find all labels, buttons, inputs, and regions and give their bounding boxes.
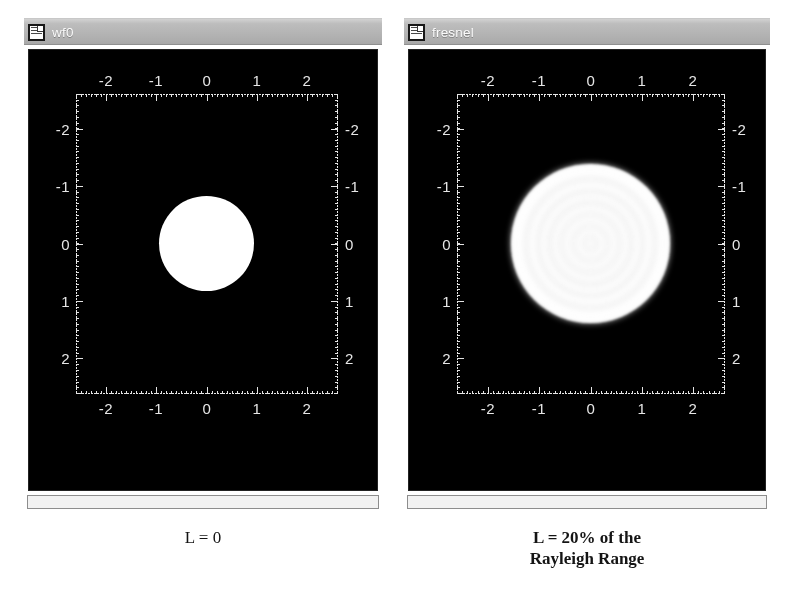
- statusbar-fresnel: [407, 495, 767, 509]
- caption-fresnel-line2: Rayleigh Range: [404, 548, 770, 569]
- aperture-disc: [159, 196, 254, 291]
- ytick-label-left: 2: [46, 351, 70, 366]
- major-tick-y: [331, 186, 338, 187]
- major-tick-y: [331, 301, 338, 302]
- ytick-label-right: 0: [345, 237, 354, 252]
- major-tick-y: [76, 186, 83, 187]
- major-tick-x: [106, 94, 107, 101]
- ytick-label-right: 1: [732, 294, 741, 309]
- caption-fresnel: L = 20% of the Rayleigh Range: [404, 527, 770, 569]
- window-body-wf0: -2-2-1-1001122221100-1-1-2-2: [24, 45, 382, 491]
- xtick-label-bottom: 1: [253, 401, 262, 416]
- major-tick-x: [539, 387, 540, 394]
- major-tick-x: [207, 387, 208, 394]
- ytick-label-right: -2: [732, 122, 746, 137]
- xtick-label-top: 1: [253, 73, 262, 88]
- major-tick-y: [457, 244, 464, 245]
- major-tick-x: [642, 94, 643, 101]
- major-tick-x: [207, 94, 208, 101]
- ytick-label-right: 0: [732, 237, 741, 252]
- major-tick-y: [457, 358, 464, 359]
- titlebar-fresnel[interactable]: fresnel: [404, 18, 770, 45]
- major-tick-y: [457, 186, 464, 187]
- major-tick-y: [718, 186, 725, 187]
- major-tick-x: [591, 387, 592, 394]
- ytick-label-left: 1: [46, 294, 70, 309]
- caption-wf0: L = 0: [24, 527, 382, 548]
- major-tick-x: [693, 94, 694, 101]
- major-tick-x: [642, 387, 643, 394]
- window-body-fresnel: -2-2-1-1001122221100-1-1-2-2: [404, 45, 770, 491]
- titlebar-wf0[interactable]: wf0: [24, 18, 382, 45]
- ytick-label-left: 0: [46, 237, 70, 252]
- xtick-label-top: 2: [689, 73, 698, 88]
- xtick-label-bottom: 0: [203, 401, 212, 416]
- ytick-label-left: 0: [427, 237, 451, 252]
- major-tick-x: [257, 94, 258, 101]
- ytick-label-right: -2: [345, 122, 359, 137]
- xtick-label-bottom: 1: [638, 401, 647, 416]
- major-tick-y: [331, 244, 338, 245]
- window-title-wf0: wf0: [52, 25, 74, 40]
- window-fresnel[interactable]: fresnel -2-2-1-1001122221100-1-1-2-2: [404, 18, 770, 518]
- major-tick-x: [156, 94, 157, 101]
- major-tick-x: [307, 387, 308, 394]
- xtick-label-bottom: -1: [532, 401, 546, 416]
- major-tick-y: [76, 358, 83, 359]
- major-tick-y: [76, 244, 83, 245]
- major-tick-x: [156, 387, 157, 394]
- ytick-label-left: 1: [427, 294, 451, 309]
- xtick-label-bottom: -2: [481, 401, 495, 416]
- caption-wf0-line1: L = 0: [185, 528, 221, 547]
- xtick-label-top: -1: [149, 73, 163, 88]
- ytick-label-left: -1: [46, 179, 70, 194]
- ytick-label-right: -1: [732, 179, 746, 194]
- major-tick-x: [488, 387, 489, 394]
- major-tick-x: [693, 387, 694, 394]
- document-window-icon: [408, 24, 425, 41]
- caption-fresnel-line1: L = 20% of the: [533, 528, 641, 547]
- xtick-label-bottom: -1: [149, 401, 163, 416]
- major-tick-x: [488, 94, 489, 101]
- ytick-label-right: 2: [732, 351, 741, 366]
- ytick-label-left: -1: [427, 179, 451, 194]
- xtick-label-top: 1: [638, 73, 647, 88]
- xtick-label-bottom: -2: [99, 401, 113, 416]
- plot-canvas-fresnel[interactable]: -2-2-1-1001122221100-1-1-2-2: [408, 49, 766, 491]
- major-tick-x: [591, 94, 592, 101]
- major-tick-y: [457, 301, 464, 302]
- xtick-label-top: 0: [203, 73, 212, 88]
- window-wf0[interactable]: wf0 -2-2-1-1001122221100-1-1-2-2: [24, 18, 382, 518]
- major-tick-y: [76, 301, 83, 302]
- major-tick-x: [307, 94, 308, 101]
- xtick-label-top: 0: [587, 73, 596, 88]
- xtick-label-bottom: 2: [303, 401, 312, 416]
- ytick-label-right: -1: [345, 179, 359, 194]
- ytick-label-left: -2: [46, 122, 70, 137]
- xtick-label-bottom: 2: [689, 401, 698, 416]
- xtick-label-top: 2: [303, 73, 312, 88]
- xtick-label-bottom: 0: [587, 401, 596, 416]
- major-tick-y: [718, 301, 725, 302]
- major-tick-y: [331, 358, 338, 359]
- major-tick-y: [457, 129, 464, 130]
- major-tick-y: [718, 129, 725, 130]
- plot-canvas-wf0[interactable]: -2-2-1-1001122221100-1-1-2-2: [28, 49, 378, 491]
- ytick-label-left: -2: [427, 122, 451, 137]
- major-tick-y: [331, 129, 338, 130]
- major-tick-y: [718, 244, 725, 245]
- window-title-fresnel: fresnel: [432, 25, 474, 40]
- ytick-label-right: 2: [345, 351, 354, 366]
- major-tick-y: [76, 129, 83, 130]
- major-tick-x: [257, 387, 258, 394]
- major-tick-x: [539, 94, 540, 101]
- major-tick-x: [106, 387, 107, 394]
- major-tick-y: [718, 358, 725, 359]
- ytick-label-left: 2: [427, 351, 451, 366]
- statusbar-wf0: [27, 495, 379, 509]
- xtick-label-top: -2: [99, 73, 113, 88]
- xtick-label-top: -1: [532, 73, 546, 88]
- document-window-icon: [28, 24, 45, 41]
- ytick-label-right: 1: [345, 294, 354, 309]
- fresnel-speckle: [511, 164, 670, 323]
